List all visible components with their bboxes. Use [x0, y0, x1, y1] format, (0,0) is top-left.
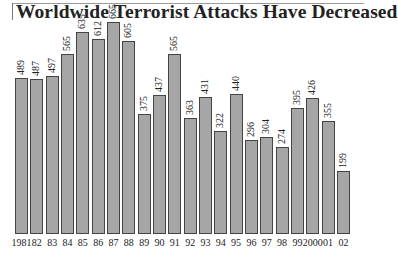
- bar: [214, 131, 227, 234]
- bar: [107, 22, 120, 234]
- x-tick-label: 02: [331, 237, 355, 248]
- bar: [30, 79, 43, 234]
- bar: [15, 78, 28, 234]
- bar-value-label: 426: [307, 80, 317, 95]
- bar-value-label: 431: [200, 79, 210, 94]
- bar-value-label: 565: [62, 36, 72, 51]
- bar: [260, 137, 273, 234]
- bar: [199, 97, 212, 234]
- bar-value-label: 635: [77, 14, 87, 29]
- bar-value-label: 665: [108, 4, 118, 19]
- bar: [322, 121, 335, 234]
- bar: [184, 118, 197, 234]
- bar-value-label: 363: [185, 100, 195, 115]
- bar-value-label: 375: [139, 96, 149, 111]
- bar-value-label: 199: [338, 153, 348, 168]
- bar-value-label: 487: [31, 61, 41, 76]
- bar: [306, 98, 319, 234]
- bar: [46, 76, 59, 234]
- bar-value-label: 437: [154, 77, 164, 92]
- bar: [76, 32, 89, 234]
- bar-value-label: 440: [231, 76, 241, 91]
- bar-value-label: 565: [169, 36, 179, 51]
- bar: [230, 94, 243, 234]
- bar-value-label: 322: [215, 113, 225, 128]
- bar: [168, 54, 181, 234]
- bar-value-label: 355: [323, 103, 333, 118]
- bar: [276, 147, 289, 234]
- bar: [92, 39, 105, 234]
- bar: [153, 95, 166, 234]
- bar: [138, 114, 151, 234]
- bar: [291, 108, 304, 234]
- bar-value-label: 497: [47, 58, 57, 73]
- bar-value-label: 274: [277, 129, 287, 144]
- bar-value-label: 296: [246, 122, 256, 137]
- bar: [245, 140, 258, 234]
- bar-value-label: 304: [261, 119, 271, 134]
- bar-value-label: 612: [93, 21, 103, 36]
- bar: [122, 41, 135, 234]
- bar: [61, 54, 74, 234]
- bar: [337, 171, 350, 234]
- bar-value-label: 605: [123, 23, 133, 38]
- bar-value-label: 395: [292, 90, 302, 105]
- bar-value-label: 489: [16, 60, 26, 75]
